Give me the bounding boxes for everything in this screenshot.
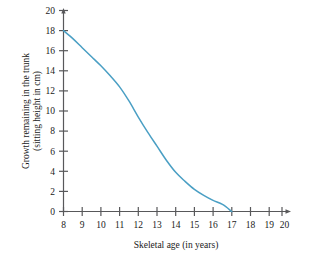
y-axis-tick-labels: 0 2 4 6 8 10 12 14 16 18 20 [46,6,56,217]
x-tick-label: 9 [80,220,85,230]
x-tick-label: 19 [264,220,274,230]
y-tick-label: 2 [50,187,55,197]
x-axis-title: Skeletal age (in years) [134,240,219,251]
x-tick-label: 20 [280,220,290,230]
x-tick-label: 18 [246,220,256,230]
chart-canvas: 0 2 4 6 8 10 12 14 16 18 20 8 9 10 11 12… [0,0,309,265]
x-axis-arrow-icon [286,209,292,213]
y-axis-title-line2: (sitting height in cm) [32,71,43,151]
growth-curve-line [64,31,232,212]
y-tick-label: 4 [50,167,55,177]
y-tick-label: 8 [50,126,55,136]
y-tick-label: 18 [46,26,56,36]
x-tick-label: 15 [190,220,200,230]
y-axis-title: Growth remaining in the trunk (sitting h… [21,53,43,169]
x-tick-label: 17 [227,220,237,230]
x-tick-label: 10 [96,220,106,230]
x-tick-label: 12 [134,220,144,230]
y-tick-label: 0 [50,207,55,217]
y-tick-label: 10 [46,106,56,116]
x-tick-label: 8 [61,220,66,230]
x-tick-label: 11 [115,220,124,230]
y-tick-label: 20 [46,6,56,16]
x-axis-tick-labels: 8 9 10 11 12 13 14 15 16 17 18 19 20 [61,220,289,230]
x-tick-label: 14 [171,220,181,230]
y-axis-title-line1: Growth remaining in the trunk [21,53,31,169]
y-tick-label: 16 [46,46,56,56]
y-tick-label: 12 [46,86,56,96]
x-tick-label: 16 [208,220,218,230]
y-tick-label: 6 [50,147,55,157]
growth-remaining-chart: 0 2 4 6 8 10 12 14 16 18 20 8 9 10 11 12… [0,0,309,265]
y-tick-label: 14 [46,66,56,76]
x-tick-label: 13 [152,220,162,230]
